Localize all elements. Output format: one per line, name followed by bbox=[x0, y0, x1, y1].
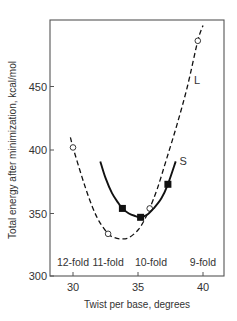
y-axis-title: Total energy after minimization, kcal/mo… bbox=[7, 61, 18, 239]
y-tick-label: 350 bbox=[29, 208, 47, 220]
series-layer bbox=[70, 26, 203, 239]
x-tick-label: 35 bbox=[132, 281, 144, 293]
y-tick-label: 400 bbox=[29, 144, 47, 156]
series-L bbox=[70, 26, 203, 239]
fold-label: 10-fold bbox=[135, 256, 167, 268]
x-axis: 303540 bbox=[67, 272, 209, 293]
fold-label: 9-fold bbox=[190, 256, 216, 268]
series-label-S: S bbox=[180, 155, 187, 167]
series-label-L: L bbox=[194, 74, 200, 86]
energy-vs-twist-chart: 303540 300350400450 12-fold11-fold10-fol… bbox=[0, 0, 237, 321]
fold-label: 12-fold bbox=[57, 256, 89, 268]
data-point-open-circle bbox=[70, 145, 76, 151]
y-tick-label: 450 bbox=[29, 81, 47, 93]
data-point-filled-square bbox=[164, 181, 171, 188]
x-axis-title: Twist per base, degrees bbox=[84, 299, 190, 310]
fold-label: 11-fold bbox=[92, 256, 123, 268]
x-tick-label: 40 bbox=[197, 281, 209, 293]
x-tick-label: 30 bbox=[67, 281, 79, 293]
y-tick-label: 300 bbox=[29, 270, 47, 282]
series-line-L bbox=[70, 26, 203, 239]
data-point-open-circle bbox=[195, 38, 201, 44]
series-line-S bbox=[100, 161, 175, 217]
data-point-filled-square bbox=[119, 205, 126, 212]
data-point-filled-square bbox=[137, 214, 144, 221]
series-S bbox=[100, 161, 175, 220]
data-point-open-circle bbox=[105, 231, 111, 237]
annotation-layer: 12-fold11-fold10-fold9-foldLS bbox=[57, 74, 216, 268]
